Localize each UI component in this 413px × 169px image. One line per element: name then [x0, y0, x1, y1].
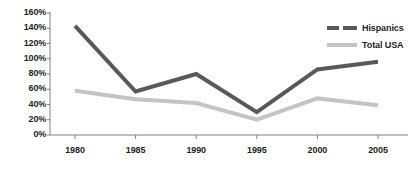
x-tick-label: 2000 [294, 145, 340, 155]
line-chart: 0%20%40%60%80%100%120%140%160% 198019851… [0, 0, 413, 169]
legend-item-hispanics: Hispanics [327, 19, 413, 36]
legend-item-total-usa: Total USA [327, 36, 413, 53]
x-tick-label: 2005 [355, 145, 401, 155]
legend-swatch-hispanics-icon [327, 26, 357, 30]
legend-label-total-usa: Total USA [362, 40, 403, 50]
x-tick-label: 1985 [113, 145, 159, 155]
legend-swatch-total-usa-icon [327, 43, 357, 47]
x-tick-label: 1995 [234, 145, 280, 155]
x-tick-label: 1980 [52, 145, 98, 155]
x-tick-label: 1990 [173, 145, 219, 155]
legend-label-hispanics: Hispanics [362, 23, 404, 33]
chart-legend: Hispanics Total USA [327, 19, 413, 53]
